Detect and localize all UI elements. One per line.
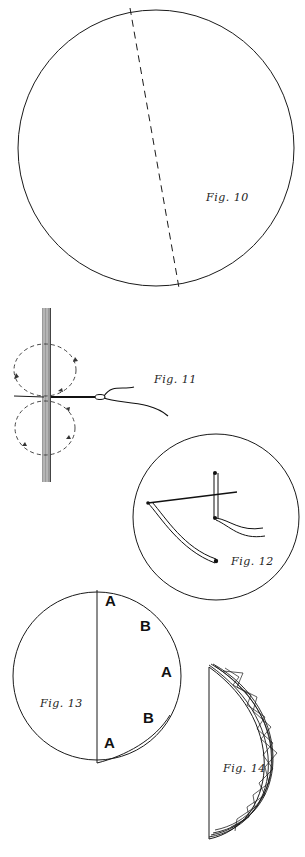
figure-13: A B A B A Fig. 13: [0, 580, 190, 780]
figure-14: Fig. 14: [195, 655, 305, 855]
point-label-b-upper: B: [140, 617, 151, 634]
point-label-a-bottom: A: [104, 734, 115, 751]
folded-circle-diagram: [0, 580, 190, 780]
point-label-b-lower: B: [143, 709, 154, 726]
figure-11-caption: Fig. 11: [154, 373, 197, 386]
circle-dashed-diameter-diagram: [0, 0, 305, 300]
figure-10-caption: Fig. 10: [206, 191, 249, 204]
figure-13-caption: Fig. 13: [40, 697, 83, 710]
gathered-half-circle-diagram: [195, 655, 305, 855]
figure-14-caption: Fig. 14: [223, 762, 266, 775]
point-label-a-top: A: [105, 592, 116, 609]
figure-12-caption: Fig. 12: [231, 555, 274, 568]
point-label-a-middle: A: [161, 663, 172, 680]
figure-10: Fig. 10: [0, 0, 305, 300]
